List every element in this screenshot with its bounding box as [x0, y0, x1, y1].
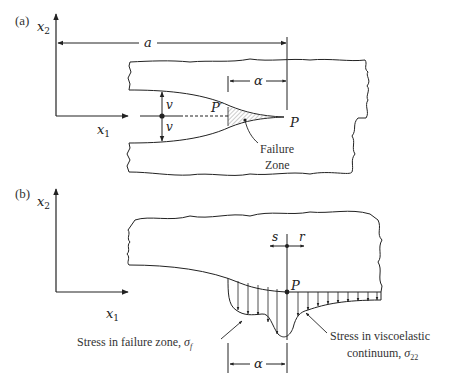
panel-a-tag: (a)	[15, 13, 29, 28]
point-p-label: P	[289, 115, 299, 130]
panel-b-tag: (b)	[15, 186, 30, 201]
b-dim-alpha-label: α	[254, 356, 263, 371]
coord-s-label: s	[272, 230, 278, 244]
panel-b: (b) x2 x1	[15, 186, 430, 373]
diagram-canvas: (a) x2 x1 a v v P′ α	[0, 0, 457, 383]
crack-diagram: (a) x2 x1 a v v P′ α	[0, 0, 457, 383]
visco-stress-label-1: Stress in viscoelastic	[330, 329, 430, 343]
visco-stress-label-2: continuum, σ22	[347, 346, 418, 362]
failure-zone-label-1: Failure	[260, 142, 294, 156]
b-body-outline	[127, 211, 382, 292]
b-x1-axis-label: x1	[106, 306, 119, 323]
dim-a-label: a	[144, 35, 152, 50]
failure-stress-leader	[221, 321, 242, 339]
b-x2-axis-label: x2	[37, 194, 50, 211]
x2-axis-label: x2	[37, 19, 50, 36]
point-p-prime-label: P′	[210, 100, 223, 115]
x1-axis-label: x1	[97, 122, 110, 139]
continuum-stress-arrows	[298, 292, 377, 316]
opening-bottom-label: v	[166, 120, 173, 134]
failure-zone-stress-arrows	[238, 281, 277, 334]
panel-a: (a) x2 x1 a v v P′ α	[15, 13, 369, 175]
opening-top-label: v	[166, 98, 173, 112]
coord-r-label: r	[299, 230, 306, 244]
failure-zone-label-2: Zone	[265, 158, 290, 172]
failure-stress-label: Stress in failure zone, σf	[77, 335, 194, 351]
b-point-p-dot	[285, 290, 290, 295]
dim-alpha-label: α	[254, 73, 263, 88]
visco-stress-leader	[306, 313, 327, 333]
upper-body-outline	[128, 59, 369, 118]
b-point-p-label: P	[290, 278, 300, 293]
failure-zone-leader	[245, 120, 258, 143]
